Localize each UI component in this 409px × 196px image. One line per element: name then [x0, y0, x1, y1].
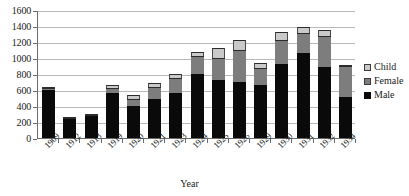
bar-series-group	[38, 11, 355, 138]
y-axis-tick-label: 1000	[0, 54, 31, 64]
bar-group	[106, 11, 119, 138]
bar-group	[169, 11, 182, 138]
bar-stack	[297, 27, 310, 138]
y-axis-tick-label: 200	[0, 118, 31, 128]
bar-group	[297, 11, 310, 138]
bar-segment-male	[233, 82, 246, 138]
y-axis-tick	[33, 139, 37, 140]
y-axis-tick	[33, 91, 37, 92]
stacked-bar-chart: Year ChildFemaleMale 0200400600800100012…	[0, 0, 409, 196]
bar-segment-male	[191, 74, 204, 138]
bar-segment-male	[318, 67, 331, 138]
y-axis-tick	[33, 75, 37, 76]
y-axis-tick-label: 1200	[0, 38, 31, 48]
legend-label: Female	[374, 76, 403, 86]
bar-stack	[191, 52, 204, 138]
bar-group	[127, 11, 140, 138]
y-axis-tick-label: 1600	[0, 6, 31, 16]
bar-group	[339, 11, 352, 138]
bar-segment-child	[233, 40, 246, 50]
bar-segment-female	[169, 78, 182, 93]
bar-group	[85, 11, 98, 138]
bar-segment-female	[127, 99, 140, 106]
bar-segment-male	[212, 80, 225, 138]
bar-segment-female	[339, 66, 352, 97]
legend-item-child: Child	[364, 60, 409, 74]
bar-group	[275, 11, 288, 138]
y-axis-tick-label: 0	[0, 134, 31, 144]
bar-segment-female	[212, 58, 225, 80]
bar-segment-child	[212, 48, 225, 58]
y-axis-tick	[33, 107, 37, 108]
bar-stack	[339, 65, 352, 138]
bar-stack	[148, 83, 161, 138]
bar-group	[254, 11, 267, 138]
y-axis-tick	[33, 27, 37, 28]
plot-area	[37, 11, 355, 139]
y-axis-tick	[33, 123, 37, 124]
y-axis-tick	[33, 11, 37, 12]
bar-stack	[169, 74, 182, 138]
y-axis-tick	[33, 43, 37, 44]
bar-segment-female	[191, 56, 204, 74]
bar-segment-female	[297, 33, 310, 53]
y-axis-tick-label: 400	[0, 102, 31, 112]
bar-group	[191, 11, 204, 138]
bar-segment-female	[318, 36, 331, 66]
bar-segment-male	[297, 53, 310, 138]
x-axis-title: Year	[0, 178, 409, 189]
legend-label: Male	[374, 90, 395, 100]
legend-label: Child	[374, 62, 396, 72]
legend-swatch-male-icon	[364, 92, 371, 99]
bar-stack	[233, 40, 246, 138]
bar-group	[63, 11, 76, 138]
bar-stack	[254, 63, 267, 138]
bar-segment-child	[275, 32, 288, 39]
bar-segment-male	[275, 64, 288, 138]
bar-group	[318, 11, 331, 138]
legend-swatch-female-icon	[364, 78, 371, 85]
bar-group	[233, 11, 246, 138]
y-axis-tick-label: 800	[0, 70, 31, 80]
bar-stack	[275, 32, 288, 138]
bar-group	[42, 11, 55, 138]
bar-segment-female	[275, 40, 288, 64]
legend-swatch-child-icon	[364, 64, 371, 71]
bar-stack	[318, 30, 331, 138]
legend-item-female: Female	[364, 74, 409, 88]
bar-segment-female	[148, 87, 161, 99]
bar-stack	[42, 87, 55, 138]
bar-segment-female	[233, 50, 246, 82]
bar-segment-male	[254, 85, 267, 138]
y-axis-tick-label: 1400	[0, 22, 31, 32]
bar-segment-female	[254, 68, 267, 86]
chart-legend: ChildFemaleMale	[364, 60, 409, 102]
bar-group	[212, 11, 225, 138]
bar-group	[148, 11, 161, 138]
x-axis-title-label: Year	[180, 178, 198, 189]
y-axis-tick-label: 600	[0, 86, 31, 96]
y-axis-tick	[33, 59, 37, 60]
legend-item-male: Male	[364, 88, 409, 102]
bar-stack	[212, 48, 225, 138]
